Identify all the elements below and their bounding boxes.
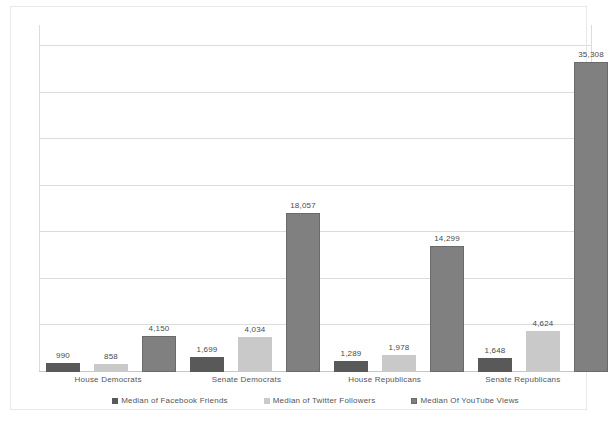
legend-label: Median of Twitter Followers: [273, 396, 376, 405]
bar-value-label: 1,978: [388, 343, 409, 352]
bar[interactable]: [46, 363, 80, 372]
bar[interactable]: [238, 337, 272, 372]
bar[interactable]: [526, 331, 560, 372]
plot-area: 9908584,1501,6994,03418,0571,2891,97814,…: [39, 25, 592, 372]
legend-item[interactable]: Median of Facebook Friends: [112, 396, 228, 405]
bar-value-label: 990: [56, 351, 70, 360]
bar-column: 4,034: [238, 25, 272, 372]
legend-swatch-icon: [411, 398, 417, 404]
bar-column: 1,978: [382, 25, 416, 372]
bar-column: 14,299: [430, 25, 464, 372]
bar-value-label: 858: [104, 352, 118, 361]
bar-value-label: 4,624: [532, 319, 553, 328]
bar[interactable]: [478, 358, 512, 372]
bar-value-label: 1,289: [340, 349, 361, 358]
category-label: Senate Republicans: [454, 375, 592, 391]
bar[interactable]: [142, 336, 176, 372]
category-label: House Republicans: [316, 375, 454, 391]
legend-swatch-icon: [264, 398, 270, 404]
bar-value-label: 14,299: [434, 234, 460, 243]
category-axis: House DemocratsSenate DemocratsHouse Rep…: [39, 375, 592, 391]
legend-label: Median of Facebook Friends: [121, 396, 228, 405]
bar[interactable]: [430, 246, 464, 372]
bar-group: 1,6994,03418,057: [183, 25, 327, 372]
bar-value-label: 4,034: [244, 325, 265, 334]
bar-column: 858: [94, 25, 128, 372]
bar-column: 990: [46, 25, 80, 372]
category-label: Senate Democrats: [177, 375, 315, 391]
bar-column: 35,308: [574, 25, 608, 372]
bar-column: 1,699: [190, 25, 224, 372]
bar[interactable]: [94, 364, 128, 372]
bar-value-label: 4,150: [148, 324, 169, 333]
legend-label: Median Of YouTube Views: [420, 396, 518, 405]
bar-value-label: 1,699: [196, 345, 217, 354]
legend-item[interactable]: Median Of YouTube Views: [411, 396, 518, 405]
chart-frame: 9908584,1501,6994,03418,0571,2891,97814,…: [10, 6, 587, 410]
bar-column: 1,648: [478, 25, 512, 372]
bar[interactable]: [334, 361, 368, 372]
category-label: House Democrats: [39, 375, 177, 391]
bar-group: 9908584,150: [39, 25, 183, 372]
bar-column: 18,057: [286, 25, 320, 372]
legend-item[interactable]: Median of Twitter Followers: [264, 396, 376, 405]
bar[interactable]: [190, 357, 224, 372]
bar-column: 4,624: [526, 25, 560, 372]
bar-group: 1,6484,62435,308: [471, 25, 612, 372]
bar-column: 4,150: [142, 25, 176, 372]
bar-value-label: 35,308: [578, 50, 604, 59]
bar-value-label: 1,648: [484, 346, 505, 355]
bar-groups: 9908584,1501,6994,03418,0571,2891,97814,…: [39, 25, 592, 372]
bar-column: 1,289: [334, 25, 368, 372]
bar[interactable]: [382, 355, 416, 372]
bar[interactable]: [286, 213, 320, 372]
legend-swatch-icon: [112, 398, 118, 404]
bar[interactable]: [574, 62, 608, 372]
chart-legend: Median of Facebook FriendsMedian of Twit…: [39, 396, 592, 405]
bar-group: 1,2891,97814,299: [327, 25, 471, 372]
bar-value-label: 18,057: [290, 201, 316, 210]
